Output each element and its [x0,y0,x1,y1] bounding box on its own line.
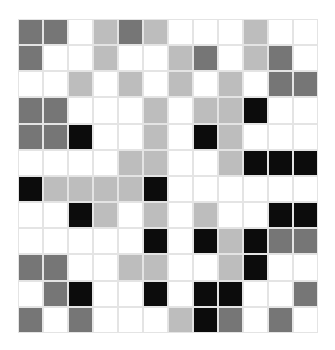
board-cell-dark-gray[interactable] [193,45,218,71]
board-cell-empty[interactable] [168,19,193,45]
board-cell-dark-gray[interactable] [18,45,43,71]
board-cell-empty[interactable] [168,97,193,123]
board-cell-empty[interactable] [143,45,168,71]
board-cell-light-gray[interactable] [143,19,168,45]
board-cell-dark-gray[interactable] [293,281,318,307]
board-cell-light-gray[interactable] [193,97,218,123]
board-cell-light-gray[interactable] [118,176,143,202]
board-cell-light-gray[interactable] [143,202,168,228]
board-cell-empty[interactable] [43,71,68,97]
board-cell-light-gray[interactable] [168,71,193,97]
board-cell-dark-gray[interactable] [268,307,293,333]
board-cell-black[interactable] [293,202,318,228]
board-cell-light-gray[interactable] [118,71,143,97]
board-cell-empty[interactable] [243,307,268,333]
board-cell-empty[interactable] [118,45,143,71]
board-cell-empty[interactable] [93,307,118,333]
board-cell-black[interactable] [68,281,93,307]
board-cell-empty[interactable] [243,124,268,150]
board-cell-black[interactable] [68,202,93,228]
board-cell-empty[interactable] [268,254,293,280]
board-cell-light-gray[interactable] [218,71,243,97]
board-cell-light-gray[interactable] [218,97,243,123]
board-cell-empty[interactable] [168,202,193,228]
board-cell-black[interactable] [143,176,168,202]
board-cell-empty[interactable] [218,45,243,71]
board-cell-empty[interactable] [143,71,168,97]
board-cell-empty[interactable] [293,19,318,45]
board-cell-light-gray[interactable] [218,124,243,150]
board-cell-empty[interactable] [18,202,43,228]
board-cell-empty[interactable] [293,254,318,280]
board-cell-empty[interactable] [93,71,118,97]
board-cell-light-gray[interactable] [218,228,243,254]
board-cell-empty[interactable] [68,254,93,280]
board-cell-empty[interactable] [118,124,143,150]
board-cell-light-gray[interactable] [143,97,168,123]
board-cell-dark-gray[interactable] [293,71,318,97]
board-cell-empty[interactable] [168,228,193,254]
board-cell-empty[interactable] [293,124,318,150]
board-cell-black[interactable] [193,281,218,307]
board-cell-empty[interactable] [43,45,68,71]
board-cell-empty[interactable] [68,228,93,254]
board-cell-empty[interactable] [293,97,318,123]
board-cell-dark-gray[interactable] [268,45,293,71]
board-cell-empty[interactable] [93,124,118,150]
board-cell-empty[interactable] [218,202,243,228]
board-cell-empty[interactable] [193,254,218,280]
board-cell-empty[interactable] [93,281,118,307]
board-cell-black[interactable] [268,150,293,176]
board-cell-dark-gray[interactable] [293,228,318,254]
board-cell-empty[interactable] [68,45,93,71]
board-cell-black[interactable] [143,281,168,307]
board-cell-empty[interactable] [268,124,293,150]
board-cell-dark-gray[interactable] [268,71,293,97]
board-cell-black[interactable] [193,307,218,333]
board-cell-empty[interactable] [218,176,243,202]
board-cell-dark-gray[interactable] [218,307,243,333]
board-cell-empty[interactable] [68,150,93,176]
board-cell-light-gray[interactable] [143,124,168,150]
board-cell-empty[interactable] [193,150,218,176]
board-cell-empty[interactable] [243,71,268,97]
board-cell-black[interactable] [193,124,218,150]
board-cell-empty[interactable] [293,307,318,333]
board-cell-empty[interactable] [243,281,268,307]
board-cell-light-gray[interactable] [118,150,143,176]
board-cell-black[interactable] [243,150,268,176]
board-cell-empty[interactable] [93,97,118,123]
board-cell-light-gray[interactable] [68,71,93,97]
board-cell-dark-gray[interactable] [43,124,68,150]
board-cell-light-gray[interactable] [143,254,168,280]
board-cell-empty[interactable] [93,150,118,176]
board-cell-light-gray[interactable] [243,19,268,45]
board-cell-dark-gray[interactable] [43,97,68,123]
board-cell-empty[interactable] [118,281,143,307]
board-cell-black[interactable] [268,202,293,228]
board-cell-dark-gray[interactable] [43,254,68,280]
board-cell-dark-gray[interactable] [18,19,43,45]
board-cell-empty[interactable] [18,150,43,176]
board-cell-light-gray[interactable] [93,45,118,71]
board-cell-black[interactable] [68,124,93,150]
board-cell-empty[interactable] [68,97,93,123]
board-cell-empty[interactable] [268,19,293,45]
board-cell-empty[interactable] [68,19,93,45]
board-cell-empty[interactable] [168,281,193,307]
board-cell-dark-gray[interactable] [43,281,68,307]
board-cell-empty[interactable] [293,45,318,71]
board-cell-light-gray[interactable] [93,176,118,202]
board-cell-light-gray[interactable] [218,254,243,280]
board-cell-dark-gray[interactable] [43,19,68,45]
board-cell-empty[interactable] [18,71,43,97]
board-cell-empty[interactable] [193,19,218,45]
board-cell-black[interactable] [243,97,268,123]
board-cell-light-gray[interactable] [243,45,268,71]
board-cell-empty[interactable] [43,228,68,254]
board-cell-light-gray[interactable] [218,150,243,176]
board-cell-dark-gray[interactable] [18,97,43,123]
board-cell-black[interactable] [218,281,243,307]
board-cell-light-gray[interactable] [68,176,93,202]
board-cell-empty[interactable] [118,307,143,333]
